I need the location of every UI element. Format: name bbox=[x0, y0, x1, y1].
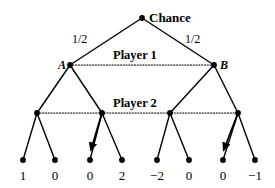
node-label-B: B bbox=[220, 59, 228, 71]
payoff-label-6: 0 bbox=[186, 169, 193, 182]
node-player2-3 bbox=[167, 110, 173, 116]
edge-p2n4-to-l8 bbox=[238, 113, 255, 160]
node-terminal-8 bbox=[252, 157, 258, 163]
edge-p2n1-to-l1 bbox=[23, 113, 37, 160]
edge-p2n4-to-l7-tail bbox=[223, 113, 238, 160]
node-terminal-3 bbox=[87, 157, 93, 163]
edge-A-to-p2n1 bbox=[37, 65, 70, 113]
game-tree-canvas bbox=[0, 0, 275, 188]
edge-p2n1-to-l2 bbox=[37, 113, 55, 160]
payoff-label-3: 0 bbox=[87, 169, 94, 182]
payoff-label-1: 1 bbox=[20, 169, 27, 182]
node-player1-B bbox=[211, 62, 217, 68]
edge-B-to-p2n4 bbox=[214, 65, 238, 113]
probability-label-left: 1/2 bbox=[72, 33, 87, 45]
node-player2-1 bbox=[34, 110, 40, 116]
node-chance-root bbox=[139, 15, 145, 21]
payoff-label-8: −1 bbox=[248, 169, 262, 182]
node-terminal-4 bbox=[119, 157, 125, 163]
node-label-A: A bbox=[58, 59, 66, 71]
edge-A-to-p2n2 bbox=[70, 65, 102, 113]
edge-B-to-p2n3 bbox=[170, 65, 214, 113]
edge-p2n2-to-l4 bbox=[102, 113, 122, 160]
node-terminal-2 bbox=[52, 157, 58, 163]
game-tree-figure: Chance 1/2 1/2 Player 1 Player 2 A B 1 0… bbox=[0, 0, 275, 188]
payoff-label-7: 0 bbox=[220, 169, 227, 182]
probability-label-right: 1/2 bbox=[185, 33, 200, 45]
edge-p2n2-to-l3-tail bbox=[90, 113, 102, 160]
node-player1-A bbox=[67, 62, 73, 68]
node-player2-4 bbox=[235, 110, 241, 116]
edge-group-player2 bbox=[23, 113, 255, 160]
edge-p2n3-to-l5 bbox=[157, 113, 170, 160]
player2-info-set-label: Player 2 bbox=[110, 97, 160, 110]
node-terminal-5 bbox=[154, 157, 160, 163]
chance-node-label: Chance bbox=[149, 11, 191, 24]
node-terminal-1 bbox=[20, 157, 26, 163]
edge-p2n3-to-l6 bbox=[170, 113, 189, 160]
payoff-label-4: 2 bbox=[119, 169, 126, 182]
node-terminal-7 bbox=[220, 157, 226, 163]
node-player2-2 bbox=[99, 110, 105, 116]
payoff-label-5: −2 bbox=[150, 169, 164, 182]
node-group bbox=[20, 15, 258, 163]
payoff-label-2: 0 bbox=[52, 169, 59, 182]
node-terminal-6 bbox=[186, 157, 192, 163]
player1-info-set-label: Player 1 bbox=[110, 49, 160, 62]
